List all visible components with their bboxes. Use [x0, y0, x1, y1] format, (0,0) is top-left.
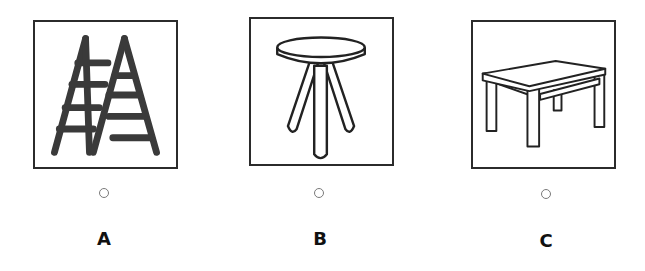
- option-b-label: B: [305, 228, 335, 249]
- option-c-label: C: [531, 230, 561, 251]
- option-c-card[interactable]: [471, 20, 616, 169]
- option-b-card[interactable]: [249, 17, 394, 166]
- stool-icon: [251, 19, 392, 164]
- ladder-icon: [35, 22, 176, 167]
- table-icon: [473, 22, 614, 167]
- option-b-radio[interactable]: [314, 188, 324, 198]
- option-a-radio[interactable]: [99, 188, 109, 198]
- option-a-label: A: [89, 228, 119, 249]
- option-c-radio[interactable]: [541, 189, 551, 199]
- option-a-card[interactable]: [33, 20, 178, 169]
